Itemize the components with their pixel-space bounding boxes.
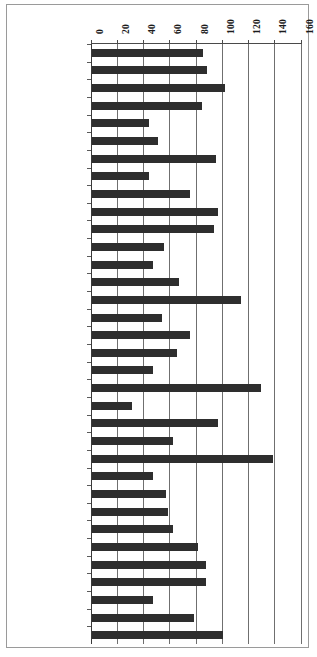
bar [92,190,190,198]
y-tick [87,450,91,451]
y-tick [87,168,91,169]
bar [92,278,180,286]
x-tick-label-140: 140 [278,19,288,34]
chart-page: 020406080100120140160 AustraliaAustriaBe… [0,0,317,657]
plot-area [91,44,301,644]
bar [92,66,208,74]
bar [92,49,204,57]
gridline-40 [143,44,144,644]
y-tick [87,556,91,557]
bar [92,525,173,533]
bar [92,137,159,145]
x-tick-label-20: 20 [121,24,131,34]
y-tick [87,591,91,592]
bar [92,543,198,551]
y-tick [87,62,91,63]
y-tick [87,256,91,257]
bar [92,261,154,269]
bar [92,472,154,480]
bar [92,508,168,516]
bar [92,561,206,569]
y-tick [87,573,91,574]
y-tick [87,626,91,627]
y-tick [87,432,91,433]
bar [92,455,273,463]
bar [92,331,190,339]
gridline-160 [301,44,302,644]
x-tick-label-80: 80 [200,24,210,34]
y-tick [87,97,91,98]
bar [92,631,223,639]
gridline-80 [196,44,197,644]
bar [92,225,214,233]
x-tick-label-160: 160 [305,19,315,34]
bar [92,419,218,427]
x-tick-label-100: 100 [226,19,236,34]
bar [92,243,164,251]
bar [92,208,218,216]
y-tick [87,185,91,186]
x-tick-label-120: 120 [252,19,262,34]
category-labels: AustraliaAustriaBelgiumCanadaChileCzech … [0,0,88,657]
y-tick [87,150,91,151]
bar [92,490,167,498]
gridline-140 [274,44,275,644]
y-tick [87,273,91,274]
y-tick [87,379,91,380]
x-tick-label-40: 40 [147,24,157,34]
y-tick [87,344,91,345]
bar [92,349,177,357]
bar [92,578,206,586]
bar [92,172,150,180]
y-tick [87,362,91,363]
y-tick [87,468,91,469]
y-tick [87,79,91,80]
bar [92,119,150,127]
bar [92,384,261,392]
y-tick [87,115,91,116]
y-tick [87,326,91,327]
y-tick [87,520,91,521]
bar [92,614,194,622]
y-tick [87,415,91,416]
bar [92,296,242,304]
y-tick [87,238,91,239]
bar [92,596,154,604]
bar [92,366,154,374]
y-tick [87,203,91,204]
gridline-120 [248,44,249,644]
y-tick [87,309,91,310]
gridline-60 [169,44,170,644]
gridline-20 [117,44,118,644]
y-tick [87,132,91,133]
y-tick [87,397,91,398]
bar [92,402,133,410]
bar [92,84,226,92]
bar [92,102,202,110]
y-tick [87,503,91,504]
y-tick [87,609,91,610]
bar [92,155,217,163]
y-tick [87,485,91,486]
bar [92,437,173,445]
y-tick [87,291,91,292]
y-tick [87,220,91,221]
y-tick [87,44,91,45]
y-tick [87,538,91,539]
gridline-0 [91,44,92,644]
gridline-100 [222,44,223,644]
bar [92,314,163,322]
x-tick-label-0: 0 [95,29,105,34]
x-tick-label-60: 60 [173,24,183,34]
